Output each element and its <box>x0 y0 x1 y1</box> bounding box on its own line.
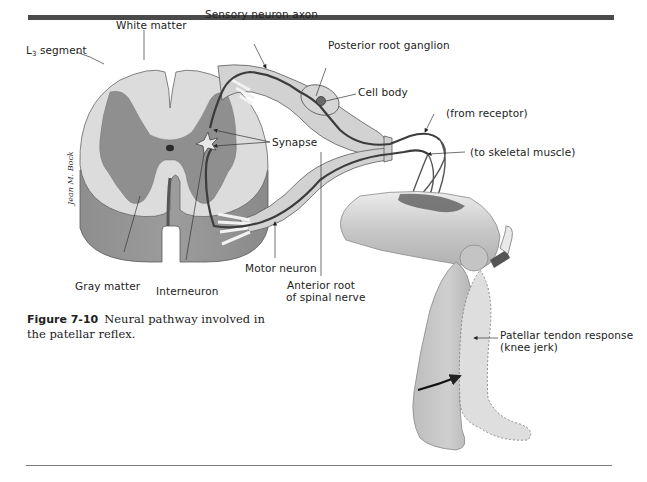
label-anterior-root-line2: of spinal nerve <box>286 291 356 303</box>
figure-number: Figure 7-10 <box>27 313 98 326</box>
cell-body-marker <box>317 97 326 106</box>
label-l3-text: segment <box>37 44 87 56</box>
artist-signature: Jean M. Bock <box>66 151 75 205</box>
label-patellar-response-line1: Patellar tendon response <box>500 329 633 341</box>
label-anterior-root-line1: Anterior root <box>286 279 356 291</box>
label-motor-neuron: Motor neuron <box>245 262 317 274</box>
label-patellar-response-line2: (knee jerk) <box>500 341 633 353</box>
label-interneuron: Interneuron <box>156 285 219 297</box>
label-patellar-response: Patellar tendon response (knee jerk) <box>500 329 633 353</box>
kicking-leg <box>459 270 530 440</box>
label-white-matter: White matter <box>116 19 187 31</box>
label-synapse: Synapse <box>272 136 317 148</box>
label-l3-segment: L3 segment <box>26 44 87 60</box>
reflex-illustration <box>0 0 647 482</box>
spinal-cord <box>80 70 268 262</box>
figure-caption: Figure 7-10Neural pathway involved in th… <box>27 312 277 341</box>
label-anterior-root: Anterior root of spinal nerve <box>286 279 356 303</box>
label-sensory-neuron-axon: Sensory neuron axon <box>205 8 318 20</box>
label-gray-matter: Gray matter <box>75 280 140 292</box>
bottom-rule <box>26 465 612 466</box>
label-posterior-root-ganglion: Posterior root ganglion <box>328 39 450 51</box>
label-cell-body: Cell body <box>358 86 408 98</box>
label-from-receptor: (from receptor) <box>446 107 528 119</box>
label-to-skeletal-muscle: (to skeletal muscle) <box>470 146 575 158</box>
